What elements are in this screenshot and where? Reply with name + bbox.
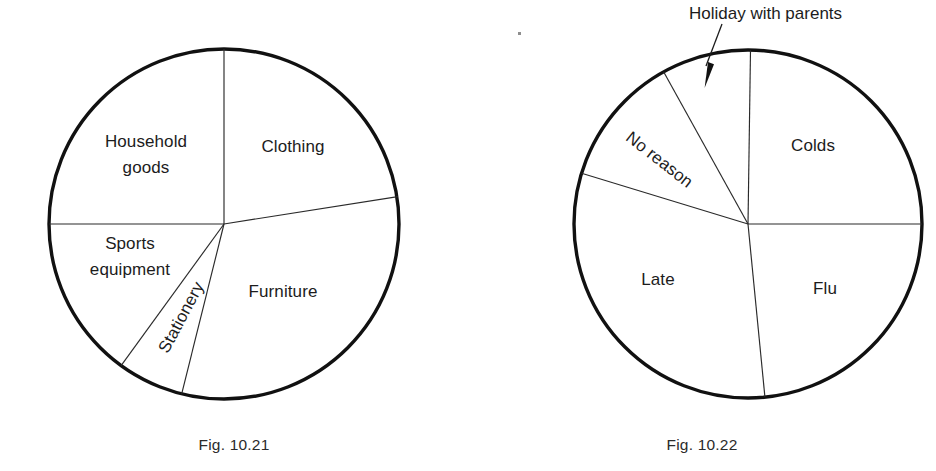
figure-10-22: Colds Flu Late No reason Holiday with pa… (468, 0, 936, 471)
slice-label-sports-equipment-line2: equipment (90, 260, 170, 279)
slice-label-colds: Colds (791, 136, 835, 155)
figure-caption-10-22: Fig. 10.22 (468, 436, 936, 454)
slice-label-household-goods-line1: Household (105, 132, 187, 151)
slice-label-furniture: Furniture (249, 282, 318, 301)
figure-10-21: Household goods Clothing Sports equipmen… (0, 0, 468, 471)
slice-label-clothing: Clothing (261, 137, 324, 156)
print-speck (518, 32, 521, 35)
callout-label-holiday-with-parents: Holiday with parents (689, 4, 842, 23)
slice-label-sports-equipment-line1: Sports (105, 234, 155, 253)
slice-label-household-goods-line2: goods (123, 158, 170, 177)
pie-chart-absence-reasons: Colds Flu Late No reason Holiday with pa… (468, 0, 936, 430)
slice-label-flu: Flu (813, 279, 837, 298)
figure-caption-10-21: Fig. 10.21 (0, 436, 468, 454)
figure-page: Household goods Clothing Sports equipmen… (0, 0, 936, 471)
pie-chart-shopping: Household goods Clothing Sports equipmen… (0, 0, 468, 430)
slice-label-late: Late (641, 270, 675, 289)
